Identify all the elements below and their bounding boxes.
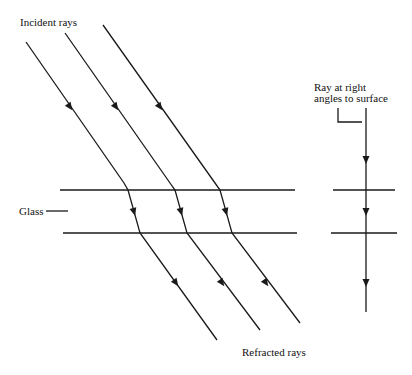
ray-1 xyxy=(26,42,217,340)
arrow-icon xyxy=(65,102,370,289)
glass-label: Glass xyxy=(19,205,43,217)
ray-3 xyxy=(103,25,300,323)
refracted-rays-label: Refracted rays xyxy=(242,346,306,358)
ray-2 xyxy=(65,33,260,330)
incident-rays-label: Incident rays xyxy=(20,16,77,28)
refraction-diagram: Incident rays Glass Refracted rays Ray a… xyxy=(0,0,412,375)
normal-ray-label-line2: angles to surface xyxy=(314,92,388,104)
normal-label-bracket xyxy=(338,108,362,122)
